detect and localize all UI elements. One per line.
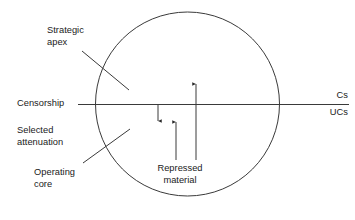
label-ucs: UCs: [318, 107, 348, 119]
diagram-root: Strategic apex Censorship Selected atten…: [0, 0, 355, 220]
label-censorship: Censorship: [17, 98, 64, 110]
label-strategic-apex: Strategic apex: [47, 25, 84, 48]
leader-line-operating-core: [83, 129, 130, 163]
leader-line-strategic-apex: [82, 51, 129, 90]
label-selected-attenuation: Selected attenuation: [17, 125, 63, 148]
label-repressed-material: Repressed material: [146, 163, 214, 186]
label-cs: Cs: [322, 90, 348, 102]
label-operating-core: Operating core: [34, 167, 75, 190]
